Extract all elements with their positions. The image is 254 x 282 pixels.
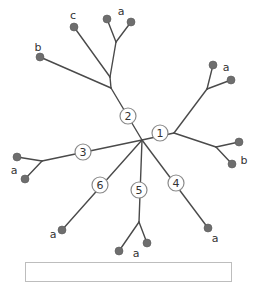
leaf-label: a xyxy=(133,247,140,260)
leaf-node xyxy=(115,247,123,255)
leaf-node xyxy=(209,61,217,69)
leaf-node xyxy=(103,15,111,23)
node-label: 4 xyxy=(173,177,180,190)
leaf-node xyxy=(143,239,151,247)
numbered-node-5: 5 xyxy=(131,182,147,198)
leaf-node xyxy=(235,138,243,146)
node-label: 2 xyxy=(125,110,132,123)
leaf-label: a xyxy=(11,164,18,177)
node-label: 1 xyxy=(157,127,164,140)
leaf-label: c xyxy=(70,9,76,22)
leaf-label: a xyxy=(118,5,125,18)
numbered-node-1: 1 xyxy=(152,125,168,141)
leaf-node xyxy=(127,18,135,26)
leaf-label: a xyxy=(212,232,219,245)
leaf-node xyxy=(36,53,44,61)
numbered-node-6: 6 xyxy=(92,177,108,193)
caption-box xyxy=(25,262,232,282)
leaf-node xyxy=(21,175,29,183)
leaf-node xyxy=(227,76,235,84)
node-label: 3 xyxy=(80,146,87,159)
leaves xyxy=(13,15,243,255)
edges xyxy=(17,19,239,251)
leaf-label: b xyxy=(241,154,248,167)
leaf-label: a xyxy=(223,61,230,74)
leaf-node xyxy=(228,160,236,168)
node-label: 6 xyxy=(97,179,104,192)
numbered-node-4: 4 xyxy=(168,175,184,191)
numbered-node-2: 2 xyxy=(120,108,136,124)
leaf-node xyxy=(70,23,78,31)
leaf-node xyxy=(58,226,66,234)
node-label: 5 xyxy=(136,184,143,197)
leaf-labels: c a b a b a a a a xyxy=(11,5,248,260)
numbered-node-3: 3 xyxy=(75,144,91,160)
leaf-label: b xyxy=(35,41,42,54)
leaf-node xyxy=(13,153,21,161)
leaf-label: a xyxy=(50,228,57,241)
